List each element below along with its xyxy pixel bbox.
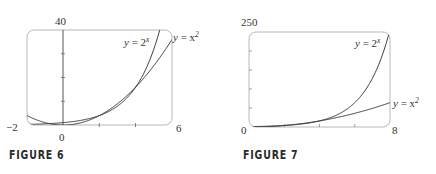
label-x-squared: y = x2 (392, 96, 419, 109)
x-max-label: 6 (176, 122, 182, 134)
figure-7-caption: FIGURE 7 (243, 148, 298, 162)
label-2-pow-x: y = 2x (123, 35, 150, 48)
plot-frame (27, 30, 172, 125)
curve-x-squared (249, 103, 390, 127)
curve-x-squared (27, 40, 172, 126)
figure-6: 40 −2 6 0 y = 2x y = x2 FIGURE 6 (0, 0, 218, 174)
figure-6-caption: FIGURE 6 (9, 148, 64, 162)
figure-7: 250 0 8 y = 2x y = x2 FIGURE 7 (218, 0, 436, 174)
x-min-label: 0 (241, 124, 247, 136)
x-min-label: −2 (6, 121, 18, 133)
label-2-pow-x: y = 2x (354, 36, 381, 49)
origin-label: 0 (59, 131, 65, 143)
x-max-label: 8 (392, 124, 398, 136)
y-max-label: 40 (55, 15, 67, 27)
y-max-label: 250 (241, 16, 258, 28)
curve-2-pow-x (27, 0, 172, 124)
label-x-squared: y = x2 (172, 30, 199, 43)
